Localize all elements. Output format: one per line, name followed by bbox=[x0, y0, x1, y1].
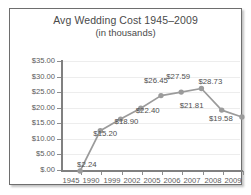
x-tick-mark bbox=[243, 171, 244, 175]
y-tick-label: $20.00 bbox=[10, 103, 55, 112]
data-point-label: $2.24 bbox=[77, 160, 97, 169]
y-tick-label: $5.00 bbox=[10, 149, 55, 158]
data-point-label: $15.20 bbox=[93, 129, 117, 138]
chart-title-block: Avg Wedding Cost 1945–2009 (in thousands… bbox=[10, 14, 241, 39]
data-point-label: $19.58 bbox=[209, 114, 233, 123]
y-axis-line bbox=[61, 60, 63, 171]
data-point-label: $21.81 bbox=[180, 101, 204, 110]
y-tick-label: $10.00 bbox=[10, 134, 55, 143]
x-tick-mark bbox=[182, 171, 183, 175]
x-tick-mark bbox=[122, 171, 123, 175]
gridline bbox=[62, 123, 240, 124]
gridline bbox=[62, 139, 240, 140]
data-point-marker bbox=[239, 114, 244, 119]
data-point-label: $26.45 bbox=[144, 76, 168, 85]
y-tick-label: $25.00 bbox=[10, 87, 55, 96]
x-tick-mark bbox=[101, 171, 102, 175]
gridline bbox=[62, 92, 240, 93]
x-tick-mark bbox=[81, 171, 82, 175]
data-point-label: $22.40 bbox=[136, 106, 160, 115]
data-point-label: $18.90 bbox=[115, 117, 139, 126]
gridline bbox=[62, 154, 240, 155]
x-axis-line bbox=[61, 170, 243, 172]
chart-title: Avg Wedding Cost 1945–2009 bbox=[10, 14, 241, 27]
y-tick-label: $35.00 bbox=[10, 56, 55, 65]
data-point-marker bbox=[158, 93, 163, 98]
chart-subtitle: (in thousands) bbox=[10, 27, 241, 39]
y-tick-label: $30.00 bbox=[10, 72, 55, 81]
x-tick-mark bbox=[223, 171, 224, 175]
x-tick-mark bbox=[142, 171, 143, 175]
x-tick-mark bbox=[203, 171, 204, 175]
x-tick-label: 2009 bbox=[218, 176, 248, 185]
data-point-label: $27.59 bbox=[166, 72, 190, 81]
gridline bbox=[62, 61, 240, 62]
y-tick-label: $.00 bbox=[10, 165, 55, 174]
y-tick-label: $15.00 bbox=[10, 118, 55, 127]
data-point-label: $28.73 bbox=[198, 77, 222, 86]
chart-card: Avg Wedding Cost 1945–2009 (in thousands… bbox=[9, 8, 242, 185]
data-point-marker bbox=[199, 86, 204, 91]
x-tick-mark bbox=[162, 171, 163, 175]
